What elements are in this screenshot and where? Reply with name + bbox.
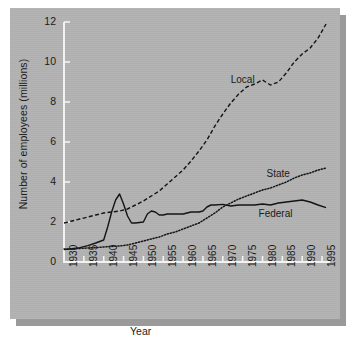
series-line-local <box>64 24 326 223</box>
x-tick-label: 1960 <box>187 245 198 267</box>
x-tick-label: 1980 <box>267 245 278 267</box>
x-tick-label: 1985 <box>286 245 297 267</box>
x-tick-label: 1975 <box>247 245 258 267</box>
series-line-federal <box>64 194 326 250</box>
x-tick-label: 1935 <box>88 245 99 267</box>
y-axis-title: Number of employees (millions) <box>17 49 29 219</box>
x-tick-label: 1950 <box>147 245 158 267</box>
series-label-federal: Federal <box>259 208 293 219</box>
chart-figure: Number of employees (millions) Year 0246… <box>0 0 356 348</box>
y-tick-label: 4 <box>34 175 56 187</box>
series-label-state: State <box>266 168 289 179</box>
x-tick-label: 1965 <box>207 245 218 267</box>
y-tick-label: 8 <box>34 95 56 107</box>
x-tick-label: 1995 <box>326 245 337 267</box>
y-tick-label: 6 <box>34 135 56 147</box>
x-tick-label: 1970 <box>227 245 238 267</box>
chart-plot-area <box>0 0 356 348</box>
x-tick-label: 1945 <box>128 245 139 267</box>
y-tick-label: 0 <box>34 255 56 267</box>
y-tick-label: 2 <box>34 215 56 227</box>
x-tick-label: 1990 <box>306 245 317 267</box>
x-tick-label: 1955 <box>167 245 178 267</box>
series-label-local: Local <box>231 74 255 85</box>
x-axis-title: Year <box>130 325 151 337</box>
x-tick-label: 1930 <box>68 245 79 267</box>
y-tick-label: 10 <box>34 55 56 67</box>
x-tick-label: 1940 <box>108 245 119 267</box>
axis-spines <box>64 22 330 262</box>
y-tick-label: 12 <box>34 15 56 27</box>
